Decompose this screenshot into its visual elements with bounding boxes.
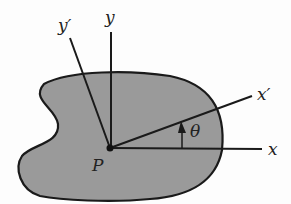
label-theta: θ [190, 123, 200, 140]
label-x-prime: x′ [257, 86, 270, 103]
diagram-canvas [0, 0, 291, 204]
label-p: P [92, 157, 103, 174]
label-y-prime: y′ [58, 17, 71, 34]
x-axis [110, 148, 262, 149]
label-y: y [105, 9, 115, 26]
label-x: x [268, 141, 278, 158]
point-p [107, 145, 114, 152]
rotated-axes-diagram: y′ y x′ x θ P [0, 0, 291, 204]
